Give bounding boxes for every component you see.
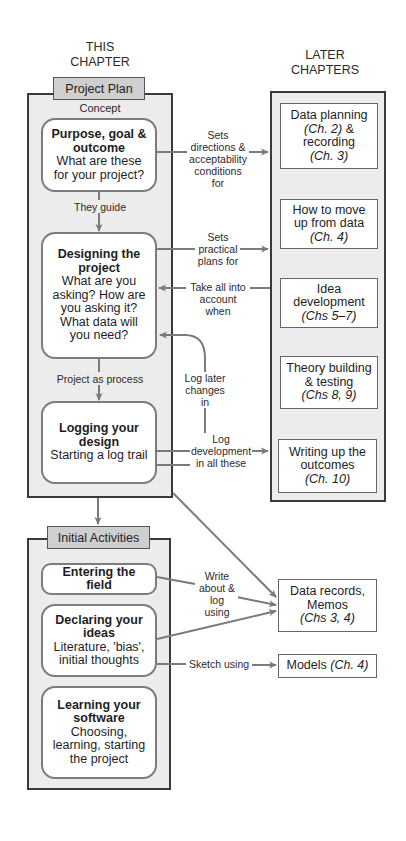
- log-development-label: Log development in all these: [190, 433, 252, 469]
- take-all-into-account-label: Take all into account when: [186, 281, 250, 317]
- sketch-using-label: Sketch using: [186, 658, 252, 670]
- sets-directions-label: Sets directions & acceptability conditio…: [187, 129, 249, 189]
- log-later-changes-label: Log later changes in: [180, 372, 230, 408]
- write-about-log-label: Write about & log using: [196, 570, 238, 618]
- connector-lines: [0, 0, 406, 841]
- sets-practical-plans-label: Sets practical plans for: [196, 231, 240, 267]
